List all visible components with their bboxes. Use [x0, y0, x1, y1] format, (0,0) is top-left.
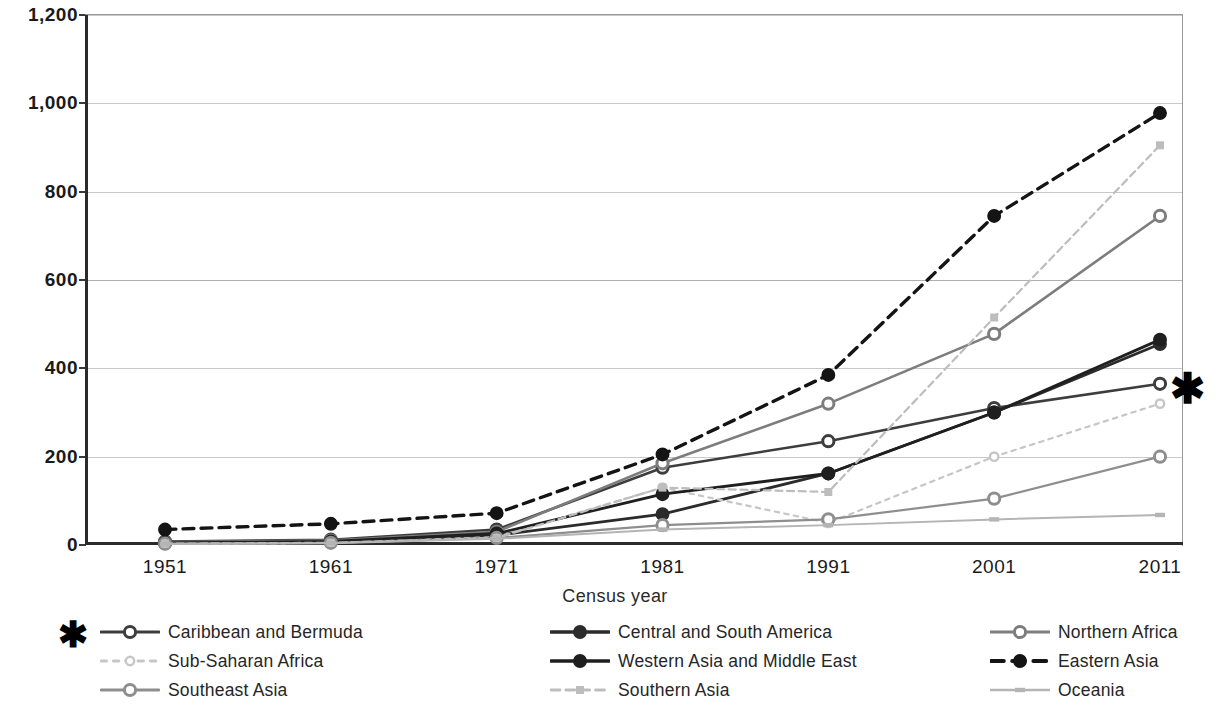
legend-row: Southeast AsiaSouthern AsiaOceania [100, 676, 1225, 704]
y-tick-label-0: 0 [67, 534, 78, 556]
x-tick-label-2001: 2001 [972, 556, 1016, 578]
legend-swatch-icon [990, 652, 1050, 670]
legend-item-sub-saharan-africa[interactable]: Sub-Saharan Africa [100, 647, 323, 675]
legend-label: Northern Africa [1058, 622, 1178, 643]
x-axis-title: Census year [0, 586, 1230, 607]
y-tick-label-1000: 1,000 [28, 92, 78, 114]
legend-item-central-and-south-america[interactable]: Central and South America [550, 618, 832, 646]
legend-label: Caribbean and Bermuda [168, 622, 363, 643]
x-tick-label-2011: 2011 [1139, 556, 1182, 578]
legend-label: Eastern Asia [1058, 651, 1159, 672]
legend-label: Oceania [1058, 680, 1125, 701]
x-tick-label-1961: 1961 [309, 556, 353, 578]
legend-swatch-icon [550, 681, 610, 699]
legend-swatch-icon [100, 623, 160, 641]
x-tick-label-1971: 1971 [475, 556, 519, 578]
legend-label: Southern Asia [618, 680, 730, 701]
legend-item-eastern-asia[interactable]: Eastern Asia [990, 647, 1159, 675]
legend-item-western-asia-and-middle-east[interactable]: Western Asia and Middle East [550, 647, 857, 675]
plot-asterisk-annotation: ✱ [1170, 368, 1205, 410]
legend-label: Sub-Saharan Africa [168, 651, 323, 672]
legend-item-southern-asia[interactable]: Southern Asia [550, 676, 730, 704]
legend-swatch-icon [100, 681, 160, 699]
x-tick-label-1951: 1951 [143, 556, 187, 578]
legend-label: Southeast Asia [168, 680, 288, 701]
legend-item-southeast-asia[interactable]: Southeast Asia [100, 676, 288, 704]
plot-area [85, 15, 1183, 545]
legend-label: Western Asia and Middle East [618, 651, 857, 672]
legend-item-northern-africa[interactable]: Northern Africa [990, 618, 1178, 646]
legend-swatch-icon [990, 681, 1050, 699]
x-tick-label-1991: 1991 [806, 556, 850, 578]
legend-item-oceania[interactable]: Oceania [990, 676, 1125, 704]
legend-item-caribbean-and-bermuda[interactable]: Caribbean and Bermuda [100, 618, 363, 646]
legend-swatch-icon [990, 623, 1050, 641]
y-tick-label-800: 800 [45, 181, 78, 203]
legend-swatch-icon [550, 623, 610, 641]
y-tick-label-600: 600 [45, 269, 78, 291]
legend-swatch-icon [550, 652, 610, 670]
chart-legend: Caribbean and BermudaCentral and South A… [100, 618, 1225, 703]
y-tick-label-400: 400 [45, 357, 78, 379]
x-tick-label-1981: 1981 [640, 556, 684, 578]
y-tick-label-1200: 1,200 [28, 4, 78, 26]
line-chart-figure: 02004006008001,0001,200 1951196119711981… [0, 0, 1230, 705]
y-tick-label-200: 200 [45, 446, 78, 468]
legend-label: Central and South America [618, 622, 832, 643]
legend-asterisk-annotation: ✱ [58, 617, 88, 653]
legend-row: Sub-Saharan AfricaWestern Asia and Middl… [100, 647, 1225, 675]
legend-row: Caribbean and BermudaCentral and South A… [100, 618, 1225, 646]
legend-swatch-icon [100, 652, 160, 670]
